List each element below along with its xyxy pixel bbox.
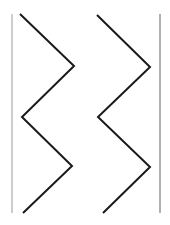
diagram-svg — [0, 0, 170, 225]
zigzag-diagram — [0, 0, 170, 225]
right-zigzag-line — [97, 15, 150, 213]
left-zigzag-line — [20, 14, 74, 213]
